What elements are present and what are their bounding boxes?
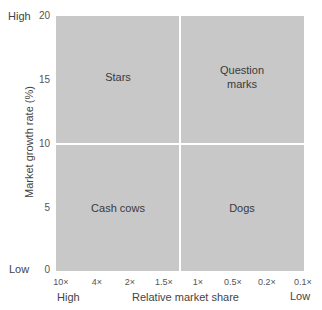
quadrant-stars: Stars [63, 70, 173, 84]
y-high-label: High [8, 10, 31, 22]
quadrant-cash-cows: Cash cows [63, 201, 173, 215]
plot-area: Stars Question marks Cash cows Dogs [56, 16, 304, 271]
y-axis-title: Market growth rate (%) [23, 77, 35, 207]
x-tick-0-5x: 0.5× [218, 277, 248, 287]
x-tick-0-2x: 0.2× [252, 277, 282, 287]
x-tick-1x: 1× [183, 277, 213, 287]
quadrant-dogs: Dogs [187, 201, 297, 215]
x-tick-0-1x: 0.1× [288, 277, 318, 287]
x-tick-1-5x: 1.5× [149, 277, 179, 287]
y-low-label: Low [9, 263, 29, 275]
vertical-divider [179, 16, 181, 271]
quadrant-question-marks: Question marks [187, 63, 297, 91]
x-tick-4x: 4× [82, 277, 112, 287]
y-tick-20: 20 [30, 10, 50, 21]
x-tick-10x: 10× [46, 277, 76, 287]
x-axis-title: Relative market share [132, 291, 239, 303]
x-low-label: Low [290, 290, 310, 302]
question-marks-line2: marks [187, 77, 297, 91]
question-marks-line1: Question [187, 63, 297, 77]
x-tick-2x: 2× [115, 277, 145, 287]
x-high-label: High [57, 291, 80, 303]
y-tick-0: 0 [30, 264, 50, 275]
